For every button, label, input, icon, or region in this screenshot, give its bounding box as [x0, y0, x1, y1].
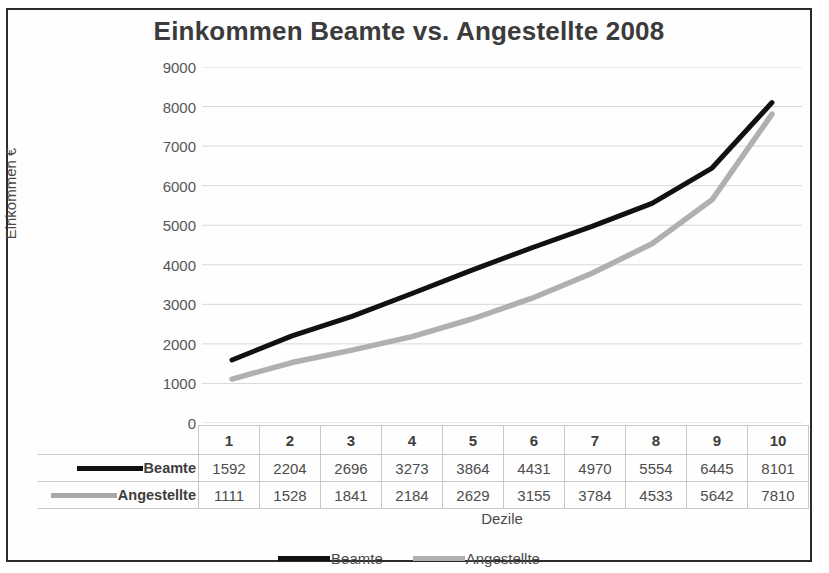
table-column-header: 4 [382, 426, 443, 455]
table-cell: 4970 [565, 455, 626, 482]
table-cell: 1592 [199, 455, 260, 482]
table-cell: 1841 [321, 482, 382, 509]
table-cell: 3784 [565, 482, 626, 509]
y-axis-tick-label: 7000 [104, 138, 196, 155]
chart-legend: Beamte Angestellte [8, 550, 810, 567]
table-cell: 2629 [443, 482, 504, 509]
legend-line-beamte-icon [278, 556, 330, 561]
table-cell: 3273 [382, 455, 443, 482]
table-cell: 4431 [504, 455, 565, 482]
chart-container: Einkommen Beamte vs. Angestellte 2008 Ei… [6, 8, 812, 562]
table-corner-cell [38, 426, 199, 455]
chart-title: Einkommen Beamte vs. Angestellte 2008 [8, 16, 810, 47]
y-axis-tick-label: 1000 [104, 375, 196, 392]
legend-item-angestellte: Angestellte [413, 550, 540, 567]
x-axis-title: Dezile [202, 510, 802, 527]
table-cell: 4533 [626, 482, 687, 509]
table-column-header: 2 [260, 426, 321, 455]
table-column-header: 3 [321, 426, 382, 455]
table-cell: 5554 [626, 455, 687, 482]
table-row: Angestellte 1111152818412184262931553784… [38, 482, 809, 509]
y-axis-title: Einkommen € [2, 44, 19, 344]
data-table: 12345678910 Beamte 159222042696327338644… [38, 425, 809, 509]
table-row-label-angestellte: Angestellte [38, 482, 199, 509]
y-axis-tick-label: 8000 [104, 98, 196, 115]
table-cell: 2696 [321, 455, 382, 482]
legend-item-beamte: Beamte [278, 550, 383, 567]
table-row: Beamte 159222042696327338644431497055546… [38, 455, 809, 482]
y-axis-tick-labels: 0100020003000400050006000700080009000 [104, 60, 196, 430]
table-cell: 6445 [687, 455, 748, 482]
y-axis-tick-label: 4000 [104, 256, 196, 273]
gridlines [202, 67, 802, 423]
y-axis-tick-label: 6000 [104, 177, 196, 194]
table-header-row: 12345678910 [38, 426, 809, 455]
y-axis-tick-label: 3000 [104, 296, 196, 313]
series-swatch-beamte-icon [77, 466, 143, 471]
y-axis-tick-label: 5000 [104, 217, 196, 234]
table-column-header: 6 [504, 426, 565, 455]
table-column-header: 10 [748, 426, 809, 455]
series-line-beamte [232, 103, 772, 360]
series-lines [232, 103, 772, 379]
line-chart-svg [202, 67, 802, 423]
legend-label: Angestellte [466, 550, 540, 567]
table-cell: 5642 [687, 482, 748, 509]
table-column-header: 9 [687, 426, 748, 455]
table-row-label-beamte: Beamte [38, 455, 199, 482]
table-cell: 7810 [748, 482, 809, 509]
table-cell: 3155 [504, 482, 565, 509]
table-column-header: 8 [626, 426, 687, 455]
table-row-label-text: Beamte [144, 460, 196, 476]
table-cell: 1111 [199, 482, 260, 509]
y-axis-tick-label: 9000 [104, 59, 196, 76]
legend-line-angestellte-icon [413, 556, 465, 561]
table-column-header: 5 [443, 426, 504, 455]
series-line-angestellte [232, 114, 772, 379]
series-swatch-angestellte-icon [51, 493, 117, 498]
table-cell: 2204 [260, 455, 321, 482]
table-cell: 2184 [382, 482, 443, 509]
table-cell: 3864 [443, 455, 504, 482]
y-axis-tick-label: 2000 [104, 335, 196, 352]
legend-label: Beamte [331, 550, 383, 567]
plot-area [202, 67, 802, 423]
table-cell: 8101 [748, 455, 809, 482]
table-cell: 1528 [260, 482, 321, 509]
table-column-header: 1 [199, 426, 260, 455]
table-row-label-text: Angestellte [118, 487, 196, 503]
table-column-header: 7 [565, 426, 626, 455]
